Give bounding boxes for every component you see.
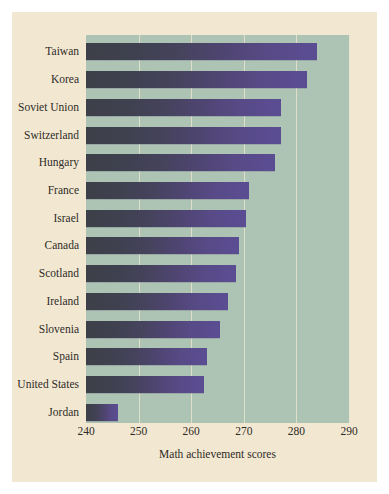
y-axis-label-ireland: Ireland <box>46 293 79 310</box>
bar-switzerland <box>86 127 281 144</box>
y-axis-label-spain: Spain <box>53 348 79 365</box>
bar-row: Jordan <box>86 404 349 421</box>
figure-panel: TaiwanKoreaSoviet UnionSwitzerlandHungar… <box>12 12 377 482</box>
y-axis-label-switzerland: Switzerland <box>24 127 79 144</box>
y-axis-label-united-states: United States <box>17 376 79 393</box>
y-axis-label-israel: Israel <box>53 210 79 227</box>
plot-area: TaiwanKoreaSoviet UnionSwitzerlandHungar… <box>86 35 349 423</box>
bar-canada <box>86 237 239 254</box>
x-axis-title: Math achievement scores <box>86 448 349 460</box>
bar-row: France <box>86 182 349 199</box>
x-tick-label-270: 270 <box>235 425 252 437</box>
bar-row: Canada <box>86 237 349 254</box>
bar-row: Slovenia <box>86 321 349 338</box>
bar-slovenia <box>86 321 220 338</box>
y-axis-label-jordan: Jordan <box>48 404 79 421</box>
gridline-290 <box>349 35 350 423</box>
x-tick-label-240: 240 <box>77 425 94 437</box>
bar-row: Soviet Union <box>86 99 349 116</box>
bar-scotland <box>86 265 236 282</box>
bar-row: Hungary <box>86 154 349 171</box>
bar-row: Spain <box>86 348 349 365</box>
y-axis-label-korea: Korea <box>51 71 79 88</box>
bar-jordan <box>86 404 118 421</box>
y-axis-label-hungary: Hungary <box>39 154 79 171</box>
bar-united-states <box>86 376 204 393</box>
y-axis-label-taiwan: Taiwan <box>45 43 79 60</box>
bar-row: Ireland <box>86 293 349 310</box>
bar-ireland <box>86 293 228 310</box>
bar-row: Korea <box>86 71 349 88</box>
x-tick-label-280: 280 <box>288 425 305 437</box>
x-tick-label-250: 250 <box>130 425 147 437</box>
bar-soviet-union <box>86 99 281 116</box>
bar-row: Taiwan <box>86 43 349 60</box>
bar-hungary <box>86 154 275 171</box>
bar-row: United States <box>86 376 349 393</box>
x-axis-ticks: 240250260270280290 <box>86 425 349 447</box>
bar-row: Switzerland <box>86 127 349 144</box>
x-tick-label-290: 290 <box>340 425 357 437</box>
y-axis-label-slovenia: Slovenia <box>39 321 79 338</box>
y-axis-label-canada: Canada <box>45 237 79 254</box>
bar-row: Scotland <box>86 265 349 282</box>
y-axis-label-scotland: Scotland <box>39 265 79 282</box>
bar-spain <box>86 348 207 365</box>
bar-france <box>86 182 249 199</box>
y-axis-label-france: France <box>48 182 79 199</box>
bar-row: Israel <box>86 210 349 227</box>
x-tick-label-260: 260 <box>183 425 200 437</box>
bar-korea <box>86 71 307 88</box>
y-axis-label-soviet-union: Soviet Union <box>18 99 79 116</box>
bar-taiwan <box>86 43 317 60</box>
bar-israel <box>86 210 246 227</box>
